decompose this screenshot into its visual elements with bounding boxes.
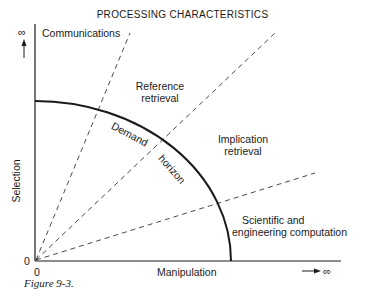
y-arrow-icon	[22, 39, 27, 58]
region-scientific-computation: Scientific and engineering computation	[232, 214, 352, 238]
y-axis-infinity-label: ∞	[18, 26, 26, 38]
x-axis-infinity-label: ∞	[323, 265, 331, 277]
figure-caption: Figure 9-3.	[24, 277, 74, 289]
region-implication-retrieval: Implication retrieval	[213, 133, 273, 157]
communications-boundary-line	[36, 33, 130, 260]
x-axis-label: Manipulation	[157, 266, 217, 278]
x-arrow-icon	[302, 269, 321, 274]
diagram-canvas	[0, 0, 365, 306]
y-axis-label: Selection	[10, 159, 22, 202]
y-axis-zero-label: 0	[24, 255, 30, 267]
demand-horizon-curve	[35, 101, 231, 261]
region-reference-retrieval: Reference retrieval	[130, 80, 190, 104]
region-communications: Communications	[42, 27, 120, 39]
